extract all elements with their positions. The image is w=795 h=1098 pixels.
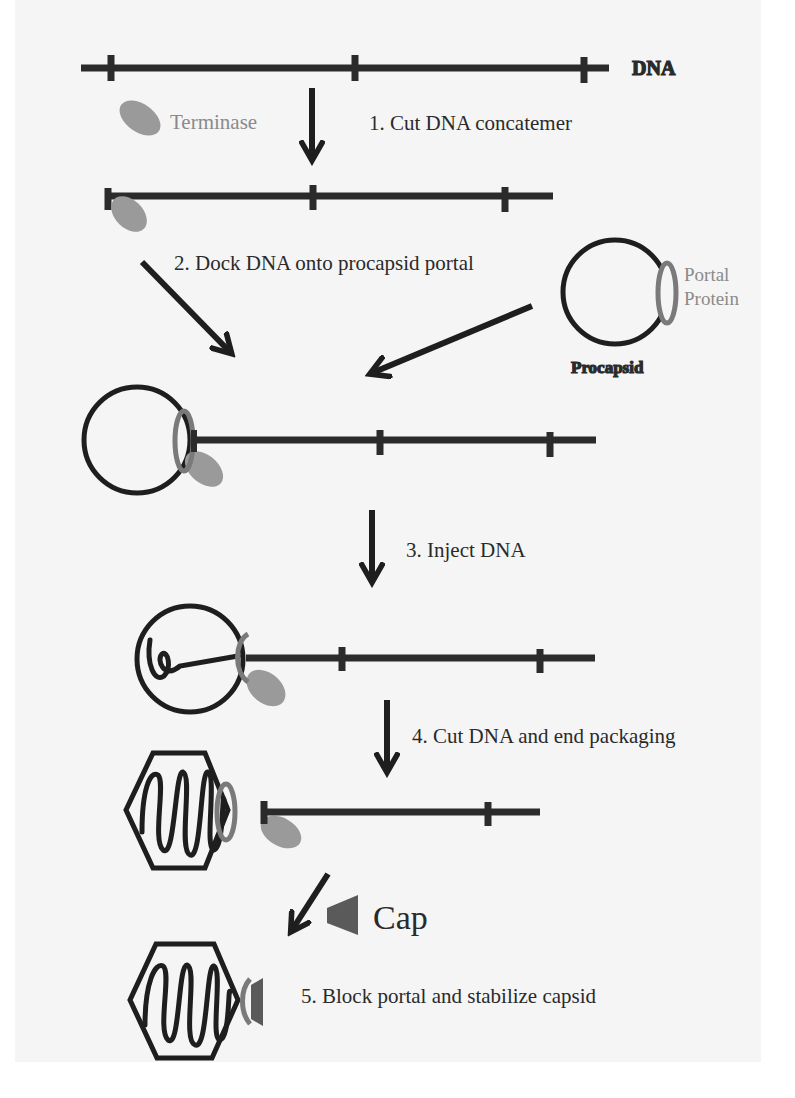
dna-coil <box>149 640 238 678</box>
docked-procapsid <box>84 387 596 494</box>
packaged-dna-coil <box>142 772 224 855</box>
step-4-text: 4. Cut DNA and end packaging <box>412 724 676 748</box>
portal-protein-icon <box>658 263 676 323</box>
dna-label: DNA <box>632 57 676 79</box>
stabilized-capsid <box>130 944 263 1058</box>
injecting-procapsid <box>137 606 595 714</box>
terminase-icon <box>240 662 293 713</box>
portal-protein-icon <box>243 979 251 1024</box>
terminase-icon <box>113 93 167 142</box>
portal-protein-label-line1: Portal <box>684 264 729 285</box>
procapsid-label: Procapsid <box>571 358 644 377</box>
arrow-diagonal-icon <box>142 262 230 352</box>
step-5-text: 5. Block portal and stabilize capsid <box>301 984 597 1008</box>
cut-dna-with-terminase <box>104 185 553 239</box>
procapsid <box>563 240 676 344</box>
released-dna-with-terminase <box>255 801 540 855</box>
step-3-text: 3. Inject DNA <box>406 538 526 562</box>
phage-dna-packaging-diagram: DNA Terminase 1. Cut DNA concatemer 2. D… <box>0 0 795 1098</box>
step-1-text: 1. Cut DNA concatemer <box>369 111 572 135</box>
arrow-diagonal-icon <box>372 306 532 373</box>
cap-icon <box>327 895 358 935</box>
cap-icon <box>251 978 263 1026</box>
packaged-dna-coil <box>145 965 230 1045</box>
arrow-diagonal-icon <box>292 874 328 930</box>
step-2-text: 2. Dock DNA onto procapsid portal <box>174 251 474 275</box>
portal-protein-label-line2: Protein <box>684 288 739 309</box>
cap-label: Cap <box>373 899 428 936</box>
packaged-capsid <box>126 753 235 868</box>
dna-concatemer <box>81 55 609 83</box>
terminase-label: Terminase <box>170 110 257 134</box>
